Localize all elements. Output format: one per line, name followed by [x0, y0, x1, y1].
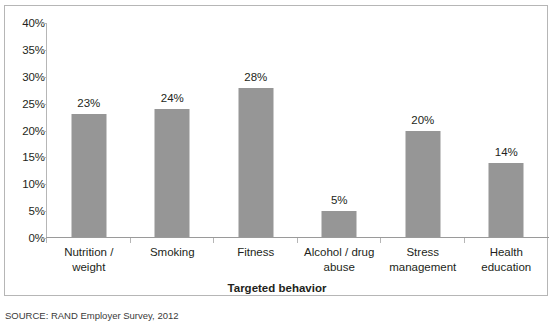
y-axis-tick-mark [41, 131, 47, 132]
bar-group[interactable]: 20% [381, 23, 465, 238]
bar[interactable] [238, 88, 273, 239]
y-axis-tick-mark [41, 50, 47, 51]
x-axis-category-label: Fitness [214, 245, 298, 260]
bar-value-label: 5% [331, 194, 348, 206]
chart-plot-frame: 40%35%30%25%20%15%10%5%0% 23%24%28%5%20%… [4, 5, 548, 296]
y-axis-tick-label: 30% [5, 71, 45, 83]
x-axis-tick-mark [464, 238, 465, 243]
bar-group[interactable]: 28% [214, 23, 298, 238]
x-axis-line [46, 237, 549, 238]
bar-value-label: 23% [77, 97, 100, 109]
y-axis-tick-label: 10% [5, 178, 45, 190]
y-axis-tick-mark [41, 184, 47, 185]
x-axis-category-labels: Nutrition /weightSmokingFitnessAlcohol /… [47, 245, 548, 287]
x-axis-category-label: Healtheducation [465, 245, 549, 275]
y-axis-tick-label: 35% [5, 44, 45, 56]
x-axis-category-label: Nutrition /weight [47, 245, 131, 275]
y-axis-tick-label: 20% [5, 125, 45, 137]
x-axis-title: Targeted behavior [5, 282, 549, 294]
source-note: SOURCE: RAND Employer Survey, 2012 [5, 310, 179, 321]
x-axis-category-label-line: Alcohol / drug [298, 245, 382, 260]
bar-group[interactable]: 24% [131, 23, 215, 238]
x-axis-tick-mark [46, 238, 47, 243]
bar-value-label: 24% [161, 92, 184, 104]
y-axis-tick-mark [41, 23, 47, 24]
bar[interactable] [489, 163, 524, 238]
x-axis-category-label-line: weight [47, 260, 131, 275]
x-axis-category-label: Stressmanagement [381, 245, 465, 275]
x-axis-tick-mark [380, 238, 381, 243]
x-axis-category-label-line: Fitness [214, 245, 298, 260]
y-axis-tick-labels: 40%35%30%25%20%15%10%5%0% [5, 6, 45, 297]
x-axis-category-label-line: management [381, 260, 465, 275]
bar[interactable] [322, 211, 357, 238]
y-axis-tick-label: 25% [5, 98, 45, 110]
bar[interactable] [155, 109, 190, 238]
x-axis-category-label: Smoking [131, 245, 215, 260]
x-axis-tick-mark [213, 238, 214, 243]
bar[interactable] [405, 131, 440, 239]
bar-group[interactable]: 5% [298, 23, 382, 238]
x-axis-category-label-line: education [465, 260, 549, 275]
plot-area: 23%24%28%5%20%14% [47, 23, 548, 238]
y-axis-tick-mark [41, 104, 47, 105]
bar-group[interactable]: 23% [47, 23, 131, 238]
x-axis-category-label: Alcohol / drugabuse [298, 245, 382, 275]
x-axis-tick-mark [130, 238, 131, 243]
x-axis-category-label-line: abuse [298, 260, 382, 275]
y-axis-tick-mark [41, 211, 47, 212]
bar-value-label: 28% [244, 71, 267, 83]
x-axis-tick-mark [547, 238, 548, 243]
y-axis-tick-mark [41, 157, 47, 158]
x-axis-tick-mark [297, 238, 298, 243]
bar[interactable] [71, 114, 106, 238]
bar-value-label: 14% [495, 146, 518, 158]
y-axis-tick-label: 40% [5, 17, 45, 29]
x-axis-category-label-line: Health [465, 245, 549, 260]
y-axis-tick-label: 0% [5, 232, 45, 244]
x-axis-category-label-line: Smoking [131, 245, 215, 260]
bar-value-label: 20% [411, 114, 434, 126]
x-axis-category-label-line: Stress [381, 245, 465, 260]
bar-group[interactable]: 14% [465, 23, 549, 238]
x-axis-category-label-line: Nutrition / [47, 245, 131, 260]
y-axis-tick-mark [41, 77, 47, 78]
y-axis-tick-label: 5% [5, 205, 45, 217]
y-axis-tick-label: 15% [5, 151, 45, 163]
